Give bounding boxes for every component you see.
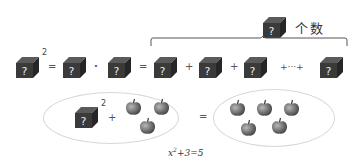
- mystery-box-icon: [242, 55, 268, 79]
- apple-icon: [229, 99, 246, 117]
- formula-rest: +3=5: [177, 148, 204, 158]
- mystery-box-icon: [106, 55, 132, 79]
- equals-sign: =: [139, 62, 147, 72]
- plus-sign: +: [108, 113, 116, 123]
- apple-icon: [256, 99, 273, 117]
- equation-caption: x2+3=5: [168, 146, 203, 158]
- mystery-box-icon: [197, 55, 223, 79]
- mystery-box-icon: [61, 55, 87, 79]
- apple-icon: [240, 119, 257, 137]
- apple-icon: [125, 98, 142, 116]
- apple-icon: [271, 117, 288, 135]
- equals-sign: =: [199, 112, 207, 122]
- mystery-box-icon: [14, 55, 40, 79]
- mystery-box-icon: [73, 105, 99, 129]
- multiply-dot: ·: [94, 62, 98, 72]
- mystery-box-icon: [318, 55, 344, 79]
- equals-sign: =: [48, 62, 56, 72]
- brace: [150, 36, 350, 48]
- mystery-box-icon: [152, 55, 178, 79]
- plus-sign: +: [185, 62, 193, 72]
- plus-sign: +: [230, 62, 238, 72]
- apple-icon: [283, 99, 300, 117]
- exponent: 2: [101, 99, 106, 108]
- exponent: 2: [42, 48, 47, 57]
- ellipsis-plus: +···+: [280, 62, 304, 72]
- apple-icon: [153, 98, 170, 116]
- apple-icon: [139, 117, 156, 135]
- count-label: 个数: [295, 18, 325, 37]
